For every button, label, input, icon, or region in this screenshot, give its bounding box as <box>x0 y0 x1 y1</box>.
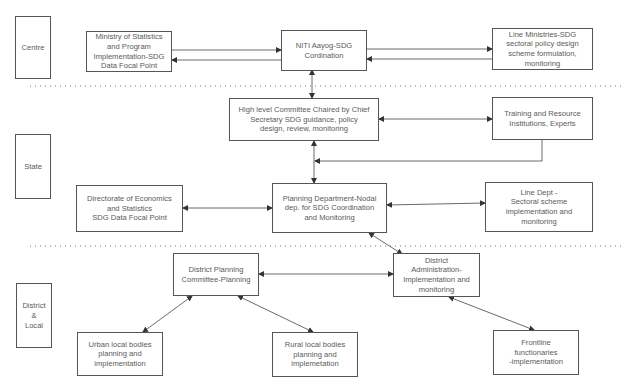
level-centre-label: Centre <box>22 43 45 53</box>
node-rural-local-bodies: Rural local bodies planning and implemet… <box>272 332 358 377</box>
node-frontline-functionaries: Frontline functionaries -implementation <box>493 330 579 375</box>
node-planning-department: Planning Department-Nodal dep. for SDG C… <box>272 183 387 233</box>
node-high-level-committee: High level Committee Chaired by Chief Se… <box>229 98 379 141</box>
node-mospi: Ministry of Statistics and Program Imple… <box>86 31 172 72</box>
node-niti-aayog: NITI Aayog-SDG Cordination <box>281 30 367 71</box>
node-line-ministries: Line Ministries-SDG sectoral policy desi… <box>492 28 593 70</box>
node-urban-local-bodies: Urban local bodies planning and implemen… <box>77 332 163 376</box>
node-directorate: Directorate of Economics and Statistics … <box>76 185 183 232</box>
node-district-planning-committee: District Planning Committee-Planning <box>173 253 259 296</box>
node-district-administration: District Administration- Implementation … <box>393 253 480 297</box>
node-line-dept: Line Dept - Sectoral scheme implementati… <box>485 182 593 232</box>
node-training-institutions: Training and Resource Institutions, Expe… <box>492 97 593 140</box>
level-district-label: District & Local <box>22 301 45 331</box>
level-district-local: District & Local <box>16 283 52 348</box>
level-state-label: State <box>24 162 42 172</box>
level-centre: Centre <box>15 16 51 79</box>
level-state: State <box>15 134 51 199</box>
